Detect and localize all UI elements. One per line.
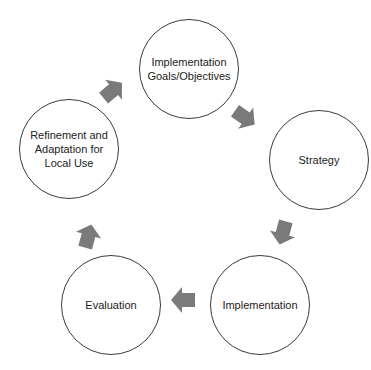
node-refinement: Refinement and Adaptation for Local Use [19, 99, 119, 199]
node-strategy-label: Strategy [299, 153, 340, 167]
arrow-strategy-to-implementation-icon [267, 218, 298, 248]
node-implementation: Implementation [210, 255, 310, 355]
node-goals: Implementation Goals/Objectives [139, 19, 239, 119]
cycle-diagram: Implementation Goals/Objectives Strategy… [0, 0, 371, 370]
node-evaluation-label: Evaluation [85, 298, 136, 312]
arrow-goals-to-strategy-icon [228, 100, 263, 135]
node-evaluation: Evaluation [61, 255, 161, 355]
arrow-evaluation-to-refinement-icon [73, 221, 104, 251]
arrow-implementation-to-evaluation-icon [171, 287, 195, 313]
node-implementation-label: Implementation [222, 298, 297, 312]
node-strategy: Strategy [269, 110, 369, 210]
arrow-refinement-to-goals-icon [95, 73, 130, 108]
node-refinement-label: Refinement and Adaptation for Local Use [30, 128, 108, 170]
node-goals-label: Implementation Goals/Objectives [147, 55, 230, 83]
